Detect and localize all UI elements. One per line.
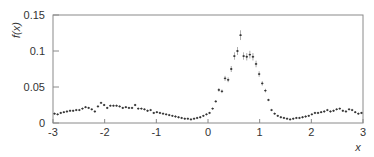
data-point — [202, 115, 204, 117]
x-tick-label: -2 — [100, 126, 110, 138]
data-point — [66, 110, 68, 112]
data-point — [329, 110, 331, 112]
data-point — [196, 117, 198, 119]
data-point — [53, 112, 55, 114]
data-point — [230, 66, 232, 72]
x-axis-title: x — [354, 141, 361, 153]
data-point — [60, 112, 62, 114]
data-point — [280, 116, 282, 118]
data-point — [326, 109, 328, 111]
x-tick-label: -1 — [151, 126, 161, 138]
data-point — [187, 117, 189, 119]
data-point — [125, 106, 127, 108]
data-point — [323, 110, 325, 112]
data-point — [357, 112, 359, 114]
data-point — [91, 108, 93, 110]
data-point — [100, 102, 102, 104]
y-axis-title: f(x) — [10, 22, 22, 38]
data-point — [94, 110, 96, 112]
data-point — [345, 110, 347, 112]
data-point — [252, 53, 254, 60]
data-point — [134, 104, 136, 106]
data-point — [72, 110, 74, 112]
data-point — [112, 105, 114, 107]
data-point — [277, 115, 279, 117]
data-point — [242, 52, 244, 59]
data-point — [335, 108, 337, 110]
data-point — [286, 117, 288, 119]
data-point — [360, 112, 362, 114]
data-point — [84, 106, 86, 108]
data-point — [140, 107, 142, 109]
data-point — [351, 109, 353, 111]
data-point — [128, 107, 130, 109]
data-point — [308, 115, 310, 117]
data-point — [149, 109, 151, 111]
data-point — [267, 99, 269, 102]
data-point — [320, 111, 322, 113]
data-point — [218, 88, 220, 92]
data-point — [69, 110, 71, 112]
data-point — [332, 110, 334, 112]
data-point — [289, 118, 291, 120]
data-point — [246, 53, 248, 60]
data-point — [97, 105, 99, 107]
data-point — [314, 112, 316, 114]
data-point — [224, 76, 226, 81]
data-point — [221, 90, 223, 94]
data-point — [239, 30, 241, 40]
y-axis: 00.050.10.15 — [24, 9, 59, 129]
data-point — [143, 108, 145, 110]
data-point — [317, 112, 319, 114]
data-point — [118, 105, 120, 107]
data-point — [171, 115, 173, 117]
data-point — [270, 109, 272, 111]
x-tick-label: 0 — [205, 126, 211, 138]
data-point — [236, 47, 238, 55]
data-point — [311, 113, 313, 115]
x-tick-label: 2 — [308, 126, 314, 138]
x-tick-label: 3 — [360, 126, 366, 138]
data-points — [53, 30, 362, 120]
data-point — [208, 112, 210, 114]
data-point — [264, 89, 266, 93]
data-point — [249, 51, 251, 59]
data-point — [168, 114, 170, 116]
data-point — [342, 110, 344, 112]
data-point — [298, 117, 300, 119]
data-point — [211, 107, 213, 109]
data-point — [159, 112, 161, 114]
data-point — [122, 107, 124, 109]
data-point — [180, 117, 182, 119]
data-point — [227, 77, 229, 82]
data-point — [131, 107, 133, 109]
data-point — [205, 113, 207, 115]
data-point — [165, 113, 167, 115]
data-point — [63, 111, 65, 113]
data-point — [103, 104, 105, 106]
data-point — [215, 100, 217, 102]
data-point — [255, 61, 257, 68]
data-point — [174, 115, 176, 117]
data-point — [156, 111, 158, 113]
data-point — [304, 115, 306, 117]
y-tick-label: 0.05 — [24, 81, 45, 93]
y-tick-label: 0.15 — [24, 9, 45, 21]
scatter-chart: 00.050.10.15 -3-2-10123 f(x) x — [0, 0, 374, 157]
data-point — [137, 107, 139, 109]
x-tick-label: -3 — [48, 126, 58, 138]
data-point — [56, 113, 58, 115]
data-point — [106, 107, 108, 109]
data-point — [184, 117, 186, 119]
data-point — [199, 116, 201, 118]
data-point — [295, 117, 297, 119]
x-axis: -3-2-10123 — [48, 119, 366, 138]
y-tick-label: 0 — [39, 117, 45, 129]
data-point — [258, 71, 260, 76]
data-point — [301, 116, 303, 118]
data-point — [348, 108, 350, 110]
data-point — [115, 105, 117, 107]
data-point — [146, 110, 148, 112]
data-point — [162, 112, 164, 114]
data-point — [190, 118, 192, 120]
